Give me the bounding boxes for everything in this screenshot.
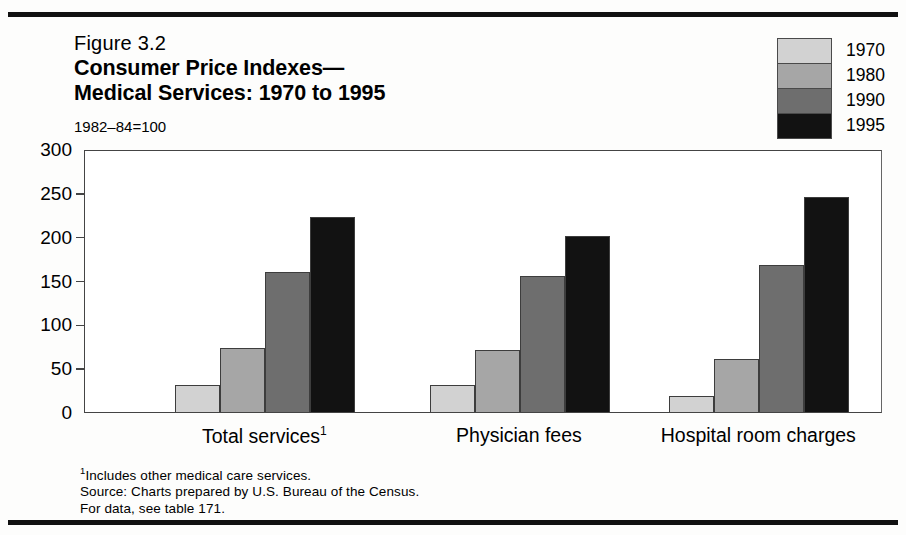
bar-1995-hospital-room-charges <box>804 197 849 412</box>
chart-legend: 1970198019901995 <box>777 38 885 139</box>
y-tick-label-200: 200 <box>32 227 72 249</box>
y-tick-label-50: 50 <box>32 358 72 380</box>
y-axis-labels: 050100150200250300 <box>20 0 72 535</box>
legend-swatch-1980 <box>778 63 831 88</box>
x-category-label-hospital-room-charges: Hospital room charges <box>661 424 856 447</box>
legend-swatch-1970 <box>778 39 831 63</box>
bar-group-physician-fees <box>430 151 610 412</box>
bar-groups <box>85 151 881 412</box>
bar-1990-hospital-room-charges <box>759 265 804 412</box>
page-title-line2: Medical Services: 1970 to 1995 <box>74 81 385 106</box>
note-source: Source: Charts prepared by U.S. Bureau o… <box>80 484 419 501</box>
legend-label-1980: 1980 <box>846 63 885 88</box>
footnote-text: Includes other medical care services. <box>85 468 311 483</box>
bar-1970-physician-fees <box>430 385 475 412</box>
bar-1980-hospital-room-charges <box>714 359 759 412</box>
bar-1970-hospital-room-charges <box>669 396 714 412</box>
legend-swatch-1990 <box>778 88 831 113</box>
figure-page: Figure 3.2 Consumer Price Indexes— Medic… <box>0 0 906 535</box>
plot-area <box>84 150 882 413</box>
bar-1990-total-services <box>265 272 310 412</box>
category-footnote-marker: 1 <box>320 424 327 438</box>
bar-group-hospital-room-charges <box>669 151 849 412</box>
note-footnote: 1Includes other medical care services. <box>80 463 419 484</box>
legend-label-stack: 1970198019901995 <box>846 38 885 139</box>
y-tick-label-250: 250 <box>32 183 72 205</box>
legend-swatch-1995 <box>778 113 831 138</box>
y-tick-label-0: 0 <box>32 402 72 424</box>
bottom-rule <box>8 520 898 525</box>
figure-number: Figure 3.2 <box>74 32 166 55</box>
legend-label-1970: 1970 <box>846 38 885 63</box>
legend-label-1990: 1990 <box>846 88 885 113</box>
bar-1970-total-services <box>175 385 220 412</box>
note-reference: For data, see table 171. <box>80 501 419 518</box>
bar-1980-physician-fees <box>475 350 520 412</box>
y-tick-label-150: 150 <box>32 271 72 293</box>
bar-1980-total-services <box>220 348 265 412</box>
y-tick-label-300: 300 <box>32 139 72 161</box>
bar-1990-physician-fees <box>520 276 565 412</box>
chart-subtitle: 1982–84=100 <box>74 118 166 135</box>
bar-1995-total-services <box>310 217 355 412</box>
page-title-line1: Consumer Price Indexes— <box>74 56 344 80</box>
top-rule <box>8 12 898 17</box>
page-title: Consumer Price Indexes— Medical Services… <box>74 56 385 106</box>
x-category-label-total-services: Total services1 <box>202 424 327 448</box>
legend-swatch-stack <box>777 38 832 139</box>
y-tick-label-100: 100 <box>32 314 72 336</box>
figure-notes: 1Includes other medical care services. S… <box>80 463 419 517</box>
bar-1995-physician-fees <box>565 236 610 412</box>
legend-label-1995: 1995 <box>846 113 885 138</box>
x-category-label-physician-fees: Physician fees <box>456 424 582 447</box>
bar-group-total-services <box>175 151 355 412</box>
x-axis-category-labels: Total services1Physician feesHospital ro… <box>84 424 882 454</box>
